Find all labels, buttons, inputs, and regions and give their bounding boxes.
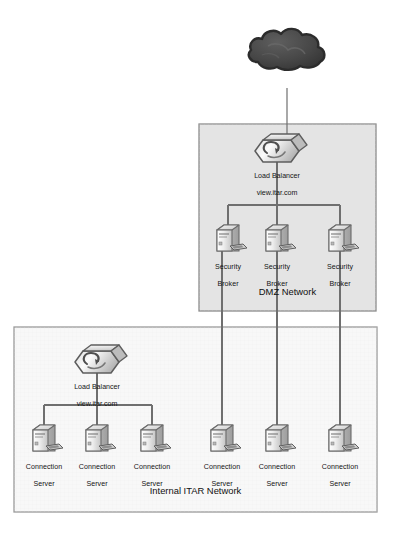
zone-internal-grid (14, 327, 377, 512)
zone-layer (14, 124, 377, 512)
internet-cloud-icon[interactable] (249, 29, 325, 70)
network-diagram: Load Balancer view.itar.com Load Balance… (0, 0, 395, 533)
diagram-canvas (0, 0, 395, 533)
